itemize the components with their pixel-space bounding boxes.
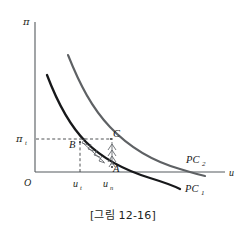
x-tick-label-u-n: u <box>103 178 108 189</box>
curve-label-pc2-subscript: 2 <box>202 160 206 168</box>
x-tick-label-u-t: u <box>73 178 78 189</box>
curve-label-pc1: PC <box>184 183 199 194</box>
point-marker-b <box>79 141 81 143</box>
x-tick-label-u-n-subscript: n <box>110 184 113 191</box>
y-axis-label: π <box>22 16 30 27</box>
phillips-curve-diagram: π u O π t u t u n A B C PC 2 PC 1 <box>0 0 246 236</box>
phillips-curve-figure: π u O π t u t u n A B C PC 2 PC 1 [그림 12… <box>0 0 246 236</box>
point-marker-c <box>110 138 112 140</box>
point-label-b: B <box>69 139 76 150</box>
x-tick-label-u-t-subscript: t <box>80 184 82 191</box>
curve-pc2 <box>68 55 205 176</box>
curve-label-pc2: PC <box>185 154 200 165</box>
point-label-c: C <box>113 128 121 139</box>
figure-caption: [그림 12-16] <box>0 206 246 222</box>
x-axis-label: u <box>229 167 234 178</box>
y-tick-label-pi-t: π <box>15 133 23 144</box>
point-label-a: A <box>112 163 120 174</box>
y-tick-label-pi-t-subscript: t <box>25 139 27 146</box>
origin-label: O <box>24 177 31 188</box>
curve-label-pc1-subscript: 1 <box>201 189 205 197</box>
